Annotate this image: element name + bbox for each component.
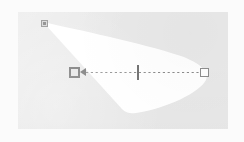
target-point-handle[interactable]: [200, 68, 209, 77]
guide-layer: [18, 12, 228, 129]
direction-arrow-icon[interactable]: [80, 68, 86, 76]
screen-root: [0, 0, 244, 142]
editor-canvas[interactable]: [18, 12, 228, 129]
midpoint-tick[interactable]: [137, 65, 139, 80]
source-node-dot: [43, 22, 46, 25]
source-node-handle[interactable]: [41, 20, 48, 27]
origin-direction-handle[interactable]: [69, 67, 80, 78]
